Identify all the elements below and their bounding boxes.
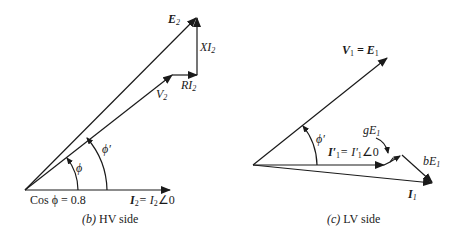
hv-caption: (b) HV side [82,212,138,227]
phi-label: ϕ [76,162,82,174]
cos-phi-label: Cos ϕ = 0.8 [30,194,86,206]
v2-label: V2 [156,88,167,102]
ri2-label: RI2 [181,79,196,93]
xi2-label: XI2 [200,41,215,55]
phi-prime-arc-lv [303,126,317,165]
i2-label: I2= I2∠0 [130,194,175,208]
v1-e1-label: V1 = E1 [342,44,379,58]
i1-label: I1 [408,188,417,202]
i1-prime-label: I′1= I′1∠0 [328,146,379,160]
i1-phasor [253,165,432,183]
v2-phasor [25,75,172,190]
phi-prime-label: ϕ′ [102,143,111,155]
lv-caption: (c) LV side [327,212,380,227]
ge1-step [390,156,400,162]
phi-prime-label-lv: ϕ′ [316,133,325,145]
lv-phasor-diagram [253,58,432,183]
e2-label: E2 [168,13,180,27]
e2-phasor [25,18,196,190]
ge1-label: gE1 [363,124,380,138]
hv-phasor-diagram [25,18,197,190]
be1-label: bE1 [423,155,440,169]
